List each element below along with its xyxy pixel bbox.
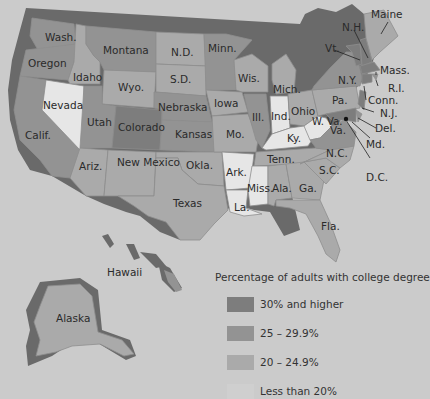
state-rhode-island[interactable] <box>372 74 378 80</box>
svg-text:Ill.: Ill. <box>252 111 264 123</box>
svg-text:Del.: Del. <box>375 122 396 134</box>
svg-text:New Mexico: New Mexico <box>117 156 180 168</box>
legend-item-mid: 25 – 29.9% <box>214 325 409 341</box>
svg-text:Pa.: Pa. <box>332 94 348 106</box>
svg-text:Vt.: Vt. <box>325 42 340 54</box>
svg-text:N.H.: N.H. <box>342 21 364 33</box>
svg-text:Ga.: Ga. <box>299 182 317 194</box>
svg-text:Ariz.: Ariz. <box>79 160 102 172</box>
state-hawaii[interactable] <box>102 234 182 292</box>
svg-text:Tenn.: Tenn. <box>266 153 295 165</box>
svg-text:Maine: Maine <box>371 8 403 20</box>
svg-text:S.C.: S.C. <box>319 164 340 176</box>
svg-text:Utah: Utah <box>87 116 112 128</box>
svg-text:Mass.: Mass. <box>380 64 409 76</box>
svg-text:D.C.: D.C. <box>366 171 388 183</box>
svg-text:S.D.: S.D. <box>170 73 191 85</box>
state-delaware[interactable] <box>356 110 362 122</box>
svg-text:Texas: Texas <box>172 197 202 209</box>
svg-text:Okla.: Okla. <box>186 159 213 171</box>
legend-swatch-high <box>227 297 254 312</box>
svg-text:N.Y.: N.Y. <box>338 74 357 86</box>
svg-text:Alaska: Alaska <box>56 312 90 324</box>
svg-text:Calif.: Calif. <box>25 129 51 141</box>
svg-text:R.I.: R.I. <box>388 82 405 94</box>
svg-text:Idaho: Idaho <box>73 71 102 83</box>
legend-item-high: 30% and higher <box>214 296 409 312</box>
svg-text:Wyo.: Wyo. <box>118 81 144 93</box>
svg-text:Wash.: Wash. <box>45 31 77 43</box>
svg-text:Wis.: Wis. <box>238 72 260 84</box>
svg-text:Nebraska: Nebraska <box>158 101 208 113</box>
svg-text:N.J.: N.J. <box>380 107 398 119</box>
svg-text:Hawaii: Hawaii <box>107 266 142 278</box>
map-legend: Percentage of adults with college degree… <box>214 271 409 399</box>
legend-swatch-mid <box>227 326 254 341</box>
svg-text:La.: La. <box>234 201 250 213</box>
svg-text:N.D.: N.D. <box>171 46 194 58</box>
svg-text:Conn.: Conn. <box>368 94 398 106</box>
legend-swatch-lowest <box>227 384 254 399</box>
svg-text:Ala.: Ala. <box>272 182 292 194</box>
svg-text:Ky.: Ky. <box>287 132 301 144</box>
svg-text:Montana: Montana <box>103 44 149 56</box>
svg-text:Ark.: Ark. <box>226 166 247 178</box>
svg-text:Kansas: Kansas <box>175 128 212 140</box>
svg-text:Iowa: Iowa <box>214 97 239 109</box>
legend-item-low: 20 – 24.9% <box>214 354 409 370</box>
svg-text:Mich.: Mich. <box>273 83 301 95</box>
svg-text:Fla.: Fla. <box>321 220 340 232</box>
legend-title: Percentage of adults with college degree <box>215 271 409 283</box>
legend-swatch-low <box>227 355 254 370</box>
svg-text:Mo.: Mo. <box>226 128 245 140</box>
svg-text:Oregon: Oregon <box>28 57 67 69</box>
svg-text:Nevada: Nevada <box>43 99 83 111</box>
svg-text:Minn.: Minn. <box>208 42 237 54</box>
svg-text:Md.: Md. <box>366 138 385 150</box>
svg-text:Colorado: Colorado <box>118 121 165 133</box>
legend-item-lowest: Less than 20% <box>214 383 409 399</box>
state-connecticut[interactable] <box>362 74 372 84</box>
svg-text:Ind.: Ind. <box>271 110 291 122</box>
svg-text:Miss.: Miss. <box>247 182 273 194</box>
svg-text:N.C.: N.C. <box>326 147 348 159</box>
svg-text:Va.: Va. <box>330 124 346 136</box>
